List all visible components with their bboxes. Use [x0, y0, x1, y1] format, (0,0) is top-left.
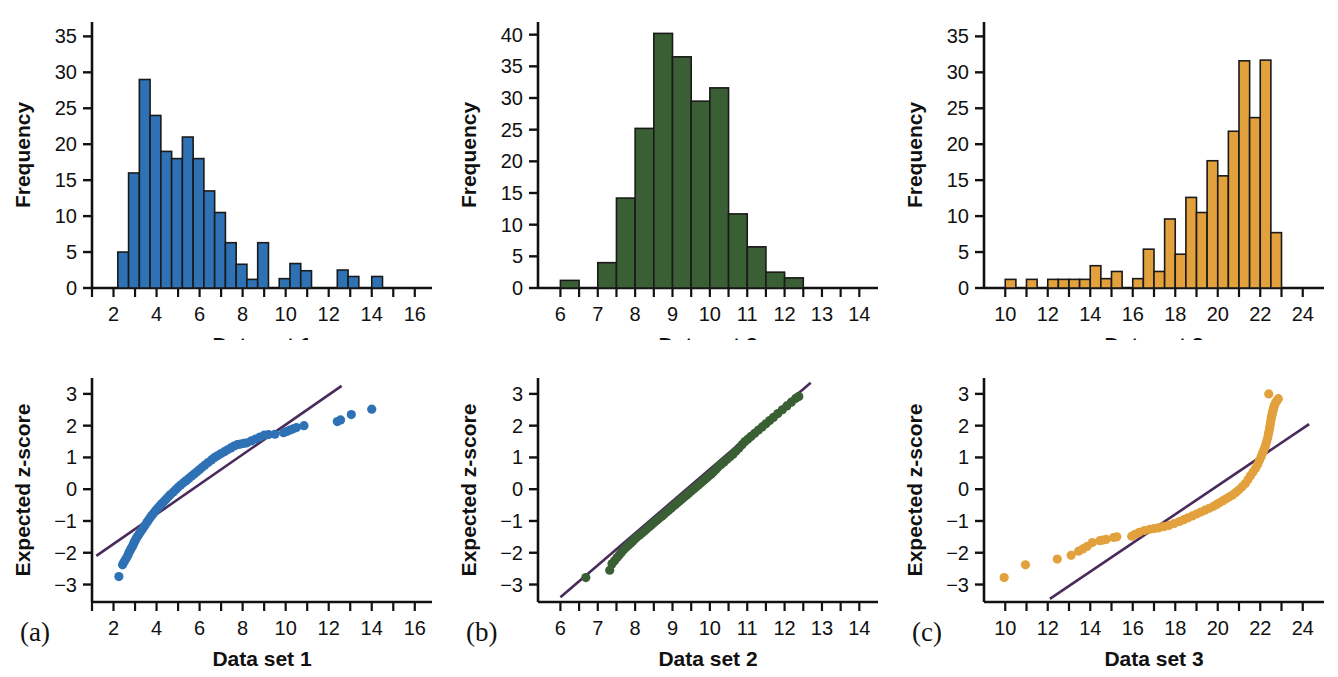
x-tick-label: 10: [275, 617, 297, 639]
histogram-bar: [673, 57, 692, 288]
y-tick-label: 2: [66, 415, 77, 437]
y-tick-label: 35: [947, 25, 969, 47]
histogram-bar: [247, 279, 258, 288]
histogram-bar: [654, 33, 673, 288]
x-tick-label: 9: [667, 617, 678, 639]
histogram-bar: [1260, 60, 1271, 288]
x-tick-label: 11: [737, 303, 758, 325]
x-tick-label: 12: [1037, 617, 1059, 639]
histogram-bar: [1165, 219, 1176, 288]
y-tick-label: 20: [947, 133, 969, 155]
histogram-bar: [785, 278, 804, 288]
panel-b-qqplot: −3−2−1012367891011121314Data set 2Expect…: [446, 340, 892, 677]
histogram-bar: [766, 272, 785, 288]
y-tick-label: 15: [947, 169, 969, 191]
y-tick-label: 5: [958, 241, 969, 263]
histogram-bar: [1080, 279, 1091, 288]
histogram-bar: [729, 214, 748, 288]
x-tick-label: 4: [151, 303, 162, 325]
y-tick-label: 10: [55, 205, 77, 227]
data-point: [270, 430, 279, 439]
histogram-dataset-2: 051015202530354067891011121314Data set 2…: [446, 0, 892, 340]
x-tick-label: 6: [194, 617, 205, 639]
x-tick-label: 24: [1292, 303, 1314, 325]
panel-b-histogram: 051015202530354067891011121314Data set 2…: [446, 0, 892, 340]
y-tick-label: −1: [500, 510, 523, 532]
y-axis-title: Expected z-score: [457, 404, 480, 577]
x-tick-label: 10: [275, 303, 297, 325]
histogram-bar: [1271, 233, 1282, 288]
figure-root: 05101520253035246810121416Data set 1Freq…: [0, 0, 1338, 677]
histogram-bar: [1069, 279, 1080, 288]
histogram-bar: [691, 101, 710, 288]
y-tick-label: 25: [501, 119, 523, 141]
y-axis-title: Frequency: [11, 102, 34, 209]
x-axis-title: Data set 1: [212, 333, 312, 340]
x-tick-label: 14: [1079, 303, 1101, 325]
data-point: [1053, 555, 1062, 564]
x-tick-label: 12: [1037, 303, 1059, 325]
x-tick-label: 12: [318, 303, 340, 325]
histogram-bar: [1090, 266, 1101, 288]
qqplot-dataset-3: −3−2−101231012141618202224Data set 3Expe…: [892, 340, 1338, 677]
x-tick-label: 20: [1207, 303, 1229, 325]
x-tick-label: 14: [1079, 617, 1101, 639]
y-axis-title: Frequency: [903, 102, 926, 209]
histogram-bar: [236, 264, 247, 288]
y-tick-label: −3: [500, 574, 523, 596]
x-tick-label: 8: [237, 303, 248, 325]
y-tick-label: 2: [958, 415, 969, 437]
histogram-bar: [1250, 118, 1261, 288]
y-tick-label: 0: [66, 277, 77, 299]
histogram-bar: [1005, 279, 1016, 288]
y-tick-label: 35: [55, 25, 77, 47]
y-axis-title: Expected z-score: [903, 404, 926, 577]
histogram-bar: [372, 276, 383, 288]
x-tick-label: 16: [1122, 303, 1144, 325]
data-point: [581, 573, 590, 582]
histogram-bar: [129, 173, 140, 288]
x-tick-label: 18: [1164, 617, 1186, 639]
x-tick-label: 14: [361, 617, 383, 639]
y-tick-label: 1: [66, 446, 77, 468]
x-tick-label: 22: [1249, 617, 1271, 639]
y-tick-label: 30: [947, 61, 969, 83]
y-tick-label: 30: [501, 87, 523, 109]
y-tick-label: −2: [946, 542, 969, 564]
x-tick-label: 10: [699, 617, 721, 639]
reference-line: [96, 386, 341, 556]
histogram-bar: [1027, 279, 1038, 288]
x-tick-label: 2: [108, 303, 119, 325]
y-tick-label: 3: [512, 383, 523, 405]
histogram-dataset-3: 051015202530351012141618202224Data set 3…: [892, 0, 1338, 340]
histogram-bar: [1133, 279, 1144, 288]
panel-c-qqplot: −3−2−101231012141618202224Data set 3Expe…: [892, 340, 1338, 677]
histogram-bar: [290, 264, 301, 288]
y-tick-label: 15: [55, 169, 77, 191]
data-point: [1021, 560, 1030, 569]
panel-a-qqplot: −3−2−10123246810121416Data set 1Expected…: [0, 340, 446, 677]
y-tick-label: −2: [500, 542, 523, 564]
y-tick-label: 40: [501, 24, 523, 46]
x-tick-label: 12: [773, 617, 795, 639]
y-tick-label: 10: [501, 214, 523, 236]
y-axis-title: Expected z-score: [11, 404, 34, 577]
x-axis-title: Data set 1: [212, 647, 312, 670]
y-tick-label: −1: [946, 510, 969, 532]
histogram-bar: [1228, 131, 1239, 288]
x-tick-label: 6: [194, 303, 205, 325]
data-point: [114, 572, 123, 581]
y-tick-label: 2: [512, 415, 523, 437]
histogram-bar: [118, 252, 129, 288]
histogram-bar: [161, 151, 172, 288]
histogram-bar: [1197, 213, 1208, 288]
data-point: [1000, 573, 1009, 582]
histogram-bar: [1218, 176, 1229, 288]
y-tick-label: 0: [512, 277, 523, 299]
x-tick-label: 9: [667, 303, 678, 325]
x-tick-label: 10: [994, 303, 1016, 325]
data-point: [336, 415, 345, 424]
histogram-bar: [1186, 197, 1197, 288]
x-tick-label: 4: [151, 617, 162, 639]
histogram-bar: [193, 159, 204, 288]
